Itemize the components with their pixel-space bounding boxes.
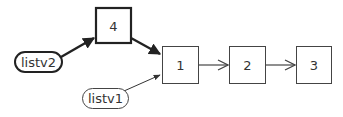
edge-listv1-to-1 <box>124 75 160 91</box>
node-3: 3 <box>297 47 332 84</box>
edge-4-to-1 <box>131 38 160 54</box>
edge-listv2-to-4 <box>61 38 94 57</box>
node-2: 2 <box>230 47 266 84</box>
node-1-label: 1 <box>176 58 184 73</box>
node-1: 1 <box>163 47 199 84</box>
node-2-label: 2 <box>243 58 251 73</box>
pointer-listv1: listv1 <box>83 89 129 109</box>
node-3-label: 3 <box>310 58 318 73</box>
node-4-label: 4 <box>109 19 117 34</box>
pointer-listv2: listv2 <box>15 52 62 72</box>
node-4: 4 <box>96 8 131 43</box>
pointer-listv1-label: listv1 <box>88 91 123 106</box>
linked-list-diagram: 4 1 2 3 listv2 listv1 <box>0 0 343 117</box>
pointer-listv2-label: listv2 <box>21 55 56 70</box>
